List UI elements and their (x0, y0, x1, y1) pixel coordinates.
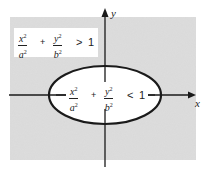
rhs-one: 1 (139, 90, 145, 101)
plus-sign: + (91, 90, 96, 101)
outside-term-y: y2 b2 (53, 31, 62, 60)
y-axis-label: y (111, 8, 116, 19)
rhs-one: 1 (88, 37, 94, 48)
ellipse-diagram: y x x2 a2 + y2 b2 > 1 x2 a2 + y2 b2 < 1 (0, 0, 205, 170)
outside-term-x: x2 a2 (18, 31, 27, 60)
inside-term-y: y2 b2 (104, 84, 113, 113)
x-axis-label: x (195, 98, 200, 109)
less-than-sign: < (127, 90, 133, 101)
plus-sign: + (40, 37, 45, 48)
inside-term-x: x2 a2 (69, 84, 78, 113)
diagram-canvas (0, 0, 205, 170)
greater-than-sign: > (76, 37, 82, 48)
y-axis-arrow-icon (102, 8, 109, 17)
